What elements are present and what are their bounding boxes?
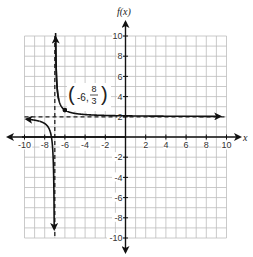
point-y-numerator: 8 xyxy=(91,84,96,94)
point-y-denominator: 3 xyxy=(91,96,96,106)
y-tick-label: -8 xyxy=(114,213,122,223)
y-axis-label: f(x) xyxy=(117,6,132,18)
y-tick-label: -10 xyxy=(109,233,122,243)
x-tick-label: -6 xyxy=(61,140,69,150)
marked-point xyxy=(63,108,68,113)
x-axis-label: x xyxy=(242,132,248,143)
x-tick-label: 6 xyxy=(184,140,189,150)
paren-open: ( xyxy=(68,83,75,105)
x-tick-label: 8 xyxy=(204,140,209,150)
y-tick-label: 8 xyxy=(117,51,122,61)
y-tick-label: 10 xyxy=(112,31,122,41)
y-tick-label: -2 xyxy=(114,152,122,162)
y-tick-label: -4 xyxy=(114,173,122,183)
function-graph: -10-8-6-4-2246810108642-2-4-6-8-10 ( -6,… xyxy=(0,0,253,257)
x-tick-label: -4 xyxy=(81,140,89,150)
y-tick-label: 6 xyxy=(117,72,122,82)
y-tick-label: 4 xyxy=(117,92,122,102)
curve-left-branch-tail xyxy=(27,119,40,121)
x-tick-label: 10 xyxy=(221,140,231,150)
paren-close: ) xyxy=(101,83,108,105)
y-tick-label: -6 xyxy=(114,193,122,203)
point-annotation: ( -6, 8 3 ) xyxy=(67,83,111,111)
x-tick-label: 4 xyxy=(163,140,168,150)
x-tick-label: 2 xyxy=(143,140,148,150)
x-tick-label: -10 xyxy=(18,140,31,150)
x-tick-label: -8 xyxy=(41,140,49,150)
point-x-label: -6, xyxy=(77,92,89,103)
y-tick-label: 2 xyxy=(117,112,122,122)
x-tick-label: -2 xyxy=(101,140,109,150)
